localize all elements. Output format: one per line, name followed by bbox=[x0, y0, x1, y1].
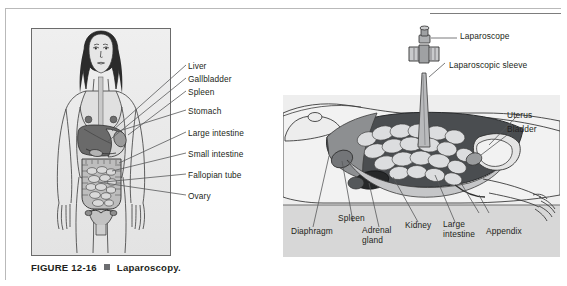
label-spleen: Spleen bbox=[188, 87, 214, 97]
label-small-intestine: Small intestine bbox=[188, 149, 243, 159]
label-appendix: Appendix bbox=[486, 226, 522, 236]
right-panel: Laparoscope Laparoscopic sleeve Uterus B… bbox=[283, 17, 560, 257]
label-gallbladder: Gallbladder bbox=[188, 74, 232, 84]
label-laparoscopic-sleeve: Laparoscopic sleeve bbox=[449, 60, 527, 70]
figure-page: Liver Gallbladder Spleen Stomach Large i… bbox=[0, 0, 567, 286]
label-fallopian-tube: Fallopian tube bbox=[188, 170, 242, 180]
figure-number: FIGURE 12-16 bbox=[31, 262, 97, 273]
label-bladder: Bladder bbox=[507, 124, 537, 134]
label-stomach: Stomach bbox=[188, 106, 221, 116]
anterior-body-illustration bbox=[31, 28, 171, 256]
label-ovary: Ovary bbox=[188, 191, 211, 201]
left-panel: Liver Gallbladder Spleen Stomach Large i… bbox=[0, 0, 277, 286]
label-large-intestine: Large intestine bbox=[188, 128, 244, 138]
label-large-intestine-lateral: Large intestine bbox=[443, 220, 479, 239]
label-kidney: Kidney bbox=[405, 220, 431, 230]
label-uterus: Uterus bbox=[507, 110, 532, 120]
label-liver: Liver bbox=[188, 61, 206, 71]
label-spleen-lateral: Spleen bbox=[338, 213, 365, 223]
label-diaphragm: Diaphragm bbox=[291, 226, 333, 236]
scan-rule-top bbox=[430, 13, 561, 14]
figure-title: Laparoscopy. bbox=[117, 262, 181, 273]
square-bullet-icon bbox=[104, 264, 110, 270]
label-adrenal-gland: Adrenal gland bbox=[362, 226, 404, 245]
figure-caption: FIGURE 12-16Laparoscopy. bbox=[31, 262, 181, 273]
label-laparoscope: Laparoscope bbox=[460, 31, 510, 41]
